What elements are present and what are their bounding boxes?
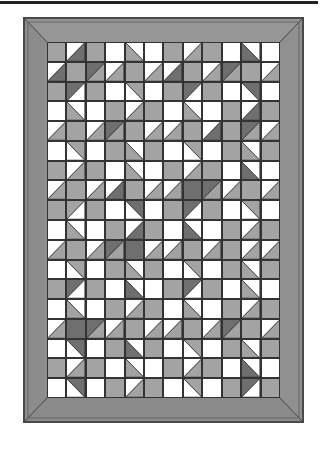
- quilt-cell: [47, 240, 66, 260]
- half-square-triangle: [184, 102, 201, 120]
- quilt-cell: [202, 240, 221, 260]
- quilt-cell: [125, 220, 144, 240]
- quilt-cell: [241, 101, 260, 121]
- half-square-triangle: [262, 241, 279, 259]
- quilt-cell: [105, 279, 124, 299]
- quilt-cell: [86, 319, 105, 339]
- quilt-cell: [125, 378, 144, 398]
- quilt-cell: [47, 339, 66, 359]
- half-square-triangle: [242, 102, 259, 120]
- quilt-cell: [163, 220, 182, 240]
- quilt-cell: [66, 82, 85, 102]
- quilt-cell: [202, 260, 221, 280]
- quilt-cell: [86, 358, 105, 378]
- quilt-cell: [66, 299, 85, 319]
- quilt-cell: [202, 279, 221, 299]
- half-square-triangle: [106, 181, 123, 199]
- quilt-cell: [86, 200, 105, 220]
- half-square-triangle: [242, 221, 259, 239]
- half-square-triangle: [184, 280, 201, 298]
- quilt-cell: [241, 240, 260, 260]
- quilt-cell: [202, 82, 221, 102]
- half-square-triangle: [48, 241, 65, 259]
- quilt-cell: [261, 358, 280, 378]
- quilt-cell: [125, 121, 144, 141]
- quilt-cell: [202, 220, 221, 240]
- quilt-cell: [66, 141, 85, 161]
- quilt-cell: [261, 200, 280, 220]
- half-square-triangle: [262, 122, 279, 140]
- quilt-cell: [105, 121, 124, 141]
- quilt-cell: [47, 82, 66, 102]
- quilt-cell: [183, 220, 202, 240]
- quilt-cell: [125, 42, 144, 62]
- quilt-cell: [241, 220, 260, 240]
- quilt-cell: [105, 101, 124, 121]
- half-square-triangle: [164, 181, 181, 199]
- quilt-cell: [241, 299, 260, 319]
- quilt-cell: [202, 358, 221, 378]
- quilt-cell: [222, 358, 241, 378]
- quilt-cell: [86, 121, 105, 141]
- quilt-cell: [86, 180, 105, 200]
- half-square-triangle: [203, 63, 220, 81]
- quilt-cell: [202, 62, 221, 82]
- half-square-triangle: [242, 201, 259, 219]
- quilt-cell: [241, 200, 260, 220]
- half-square-triangle: [67, 340, 84, 358]
- quilt-cell: [66, 121, 85, 141]
- quilt-cell: [86, 101, 105, 121]
- half-square-triangle: [184, 83, 201, 101]
- quilt-cell: [66, 319, 85, 339]
- quilt-cell: [66, 339, 85, 359]
- quilt-cell: [47, 62, 66, 82]
- half-square-triangle: [87, 320, 104, 338]
- quilt-cell: [202, 378, 221, 398]
- quilt-cell: [163, 378, 182, 398]
- quilt-cell: [183, 319, 202, 339]
- quilt-cell: [202, 161, 221, 181]
- quilt-cell: [183, 180, 202, 200]
- quilt-cell: [66, 279, 85, 299]
- quilt-cell: [261, 220, 280, 240]
- half-square-triangle: [242, 300, 259, 318]
- half-square-triangle: [242, 241, 259, 259]
- quilt-cell: [222, 180, 241, 200]
- quilt-cell: [261, 378, 280, 398]
- quilt-cell: [105, 82, 124, 102]
- quilt-cell: [125, 240, 144, 260]
- quilt-cell: [105, 240, 124, 260]
- quilt-cell: [222, 141, 241, 161]
- half-square-triangle: [106, 122, 123, 140]
- quilt-cell: [222, 339, 241, 359]
- half-square-triangle: [203, 241, 220, 259]
- quilt-cell: [125, 82, 144, 102]
- quilt-cell: [144, 378, 163, 398]
- quilt-cell: [163, 240, 182, 260]
- quilt-cell: [222, 240, 241, 260]
- quilt-cell: [183, 101, 202, 121]
- quilt-cell: [86, 42, 105, 62]
- quilt-cell: [163, 121, 182, 141]
- quilt-cell: [144, 220, 163, 240]
- quilt-cell: [47, 180, 66, 200]
- half-square-triangle: [203, 320, 220, 338]
- half-square-triangle: [145, 320, 162, 338]
- quilt-cell: [86, 141, 105, 161]
- quilt-cell: [125, 200, 144, 220]
- quilt-cell: [241, 161, 260, 181]
- quilt-cell: [241, 279, 260, 299]
- quilt-cell: [163, 319, 182, 339]
- quilt-cell: [183, 141, 202, 161]
- quilt-cell: [163, 62, 182, 82]
- quilt-cell: [66, 180, 85, 200]
- quilt-cell: [125, 279, 144, 299]
- quilt-cell: [222, 101, 241, 121]
- quilt-cell: [47, 141, 66, 161]
- half-square-triangle: [262, 63, 279, 81]
- quilt-cell: [105, 200, 124, 220]
- half-square-triangle: [242, 162, 259, 180]
- quilt-cell: [183, 240, 202, 260]
- quilt-cell: [144, 240, 163, 260]
- quilt-cell: [163, 260, 182, 280]
